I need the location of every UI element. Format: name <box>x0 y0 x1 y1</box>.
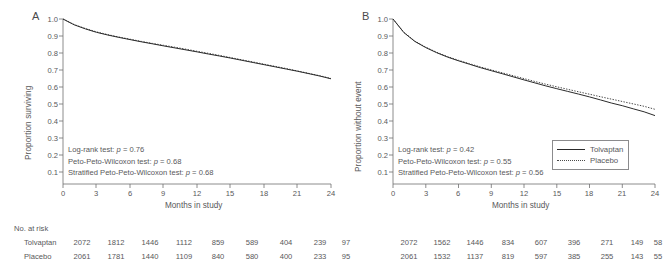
risk-a-placebo-3: 1781 <box>103 252 129 261</box>
panel-a-stats: Log-rank test: p = 0.76 Peto-Peto-Wilcox… <box>68 144 213 179</box>
legend-item-placebo: Placebo <box>557 155 623 166</box>
panel-b-stat-peto: Peto-Peto-Wilcoxon test: p = 0.55 <box>398 156 543 168</box>
risk-table-header: No. at risk <box>14 224 48 233</box>
risk-a-placebo-0: 2061 <box>69 252 95 261</box>
risk-b-tolvaptan-12: 607 <box>528 238 554 247</box>
panel-a-xtick-18: 18 <box>256 189 272 198</box>
panel-a-stat-logrank: Log-rank test: p = 0.76 <box>68 144 213 156</box>
risk-b-placebo-24: 55 <box>645 252 663 261</box>
risk-b-tolvaptan-18: 271 <box>594 238 620 247</box>
panel-a-xtick-21: 21 <box>289 189 305 198</box>
panel-b-stats: Log-rank test: p = 0.42 Peto-Peto-Wilcox… <box>398 144 543 179</box>
risk-a-tolvaptan-21: 239 <box>307 238 333 247</box>
panel-b-xtick-0: 0 <box>385 189 401 198</box>
risk-b-placebo-18: 255 <box>594 252 620 261</box>
risk-b-tolvaptan-3: 1562 <box>429 238 455 247</box>
legend-label-tolvaptan: Tolvaptan <box>590 145 623 154</box>
panel-b-xtick-18: 18 <box>581 189 597 198</box>
risk-a-tolvaptan-18: 404 <box>273 238 299 247</box>
risk-a-tolvaptan-9: 1112 <box>171 238 197 247</box>
panel-b-xtick-12: 12 <box>516 189 532 198</box>
panel-b-xtick-21: 21 <box>614 189 630 198</box>
panel-a-xtick-0: 0 <box>55 189 71 198</box>
panel-b-xtick-24: 24 <box>647 189 663 198</box>
risk-a-tolvaptan-6: 1446 <box>137 238 163 247</box>
risk-a-placebo-21: 233 <box>307 252 333 261</box>
risk-b-tolvaptan-6: 1446 <box>462 238 488 247</box>
panel-b-xtick-15: 15 <box>549 189 565 198</box>
panel-b-xtick-6: 6 <box>450 189 466 198</box>
panel-b-xtick-3: 3 <box>418 189 434 198</box>
panel-b: B Proportion without event 1.0 0.9 0.8 0… <box>330 0 663 270</box>
risk-b-placebo-0: 2061 <box>396 252 422 261</box>
panel-a-xtick-12: 12 <box>189 189 205 198</box>
risk-a-tolvaptan-0: 2072 <box>69 238 95 247</box>
risk-row-label-tolvaptan: Tolvaptan <box>24 238 57 247</box>
risk-b-tolvaptan-9: 834 <box>495 238 521 247</box>
panel-a-stat-stratified-peto: Stratified Peto-Peto-Wilcoxon test: p = … <box>68 167 213 179</box>
panel-a-stat-peto: Peto-Peto-Wilcoxon test: p = 0.68 <box>68 156 213 168</box>
risk-row-label-placebo: Placebo <box>24 252 51 261</box>
panel-b-x-axis-label: Months in study <box>492 201 549 210</box>
panel-a-xtick-6: 6 <box>122 189 138 198</box>
risk-b-tolvaptan-24: 58 <box>645 238 663 247</box>
risk-b-tolvaptan-0: 2072 <box>396 238 422 247</box>
panel-a-xtick-3: 3 <box>88 189 104 198</box>
risk-a-tolvaptan-24: 97 <box>333 238 359 247</box>
panel-a-curve-tolvaptan <box>63 19 331 79</box>
risk-a-tolvaptan-3: 1812 <box>103 238 129 247</box>
risk-b-placebo-3: 1532 <box>429 252 455 261</box>
risk-a-placebo-18: 400 <box>273 252 299 261</box>
panel-b-xtick-9: 9 <box>483 189 499 198</box>
panel-a-x-axis-label: Months in study <box>165 201 222 210</box>
risk-a-placebo-6: 1440 <box>137 252 163 261</box>
kaplan-meier-figure: A Proportion surviving 1.0 0.9 0.8 0.7 0… <box>0 0 663 270</box>
risk-a-placebo-15: 580 <box>239 252 265 261</box>
risk-a-tolvaptan-12: 859 <box>205 238 231 247</box>
solid-line-icon <box>557 145 585 154</box>
risk-a-placebo-12: 840 <box>205 252 231 261</box>
dotted-line-icon <box>557 156 585 165</box>
risk-a-placebo-9: 1109 <box>171 252 197 261</box>
risk-b-placebo-12: 597 <box>528 252 554 261</box>
legend-label-placebo: Placebo <box>590 156 618 165</box>
risk-b-placebo-9: 819 <box>495 252 521 261</box>
risk-a-tolvaptan-15: 589 <box>239 238 265 247</box>
panel-b-curve-tolvaptan <box>393 19 655 116</box>
panel-a-xtick-15: 15 <box>222 189 238 198</box>
risk-b-placebo-6: 1137 <box>462 252 488 261</box>
risk-b-placebo-15: 385 <box>561 252 587 261</box>
panel-a-xtick-9: 9 <box>155 189 171 198</box>
panel-b-stat-logrank: Log-rank test: p = 0.42 <box>398 144 543 156</box>
legend-item-tolvaptan: Tolvaptan <box>557 144 623 155</box>
risk-b-tolvaptan-15: 396 <box>561 238 587 247</box>
panel-a: A Proportion surviving 1.0 0.9 0.8 0.7 0… <box>0 0 345 270</box>
chart-legend: Tolvaptan Placebo <box>552 140 629 170</box>
risk-a-placebo-24: 95 <box>333 252 359 261</box>
panel-b-stat-stratified-peto: Stratified Peto-Peto-Wilcoxon test: p = … <box>398 167 543 179</box>
panel-b-curve-placebo <box>393 19 655 109</box>
